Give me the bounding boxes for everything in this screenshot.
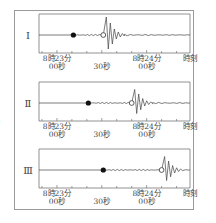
tick-label-seconds: 30秒	[94, 196, 112, 206]
tick-label-seconds: 00秒	[49, 129, 67, 139]
plot-box	[39, 14, 190, 53]
panel-label-III: Ⅲ	[23, 165, 33, 176]
p-wave-arrival-dot	[101, 167, 106, 172]
tick-label-seconds: 00秒	[49, 196, 67, 206]
s-wave-arrival-circle	[159, 168, 164, 173]
tick-label-seconds: 00秒	[138, 61, 156, 71]
waveform-trace	[39, 17, 190, 49]
axis-end-label: 時刻	[183, 188, 197, 198]
tick-label-seconds: 30秒	[94, 129, 112, 139]
s-wave-arrival-circle	[101, 33, 106, 38]
panel-label-II: Ⅱ	[25, 98, 32, 109]
panel-label-I: Ⅰ	[26, 30, 30, 41]
seismogram-figure: Ⅰ8時23分00秒30秒8時24分00秒時刻Ⅱ8時23分00秒30秒8時24分0…	[0, 0, 216, 223]
s-wave-arrival-circle	[129, 101, 134, 106]
plot-box	[39, 82, 190, 121]
waveform-trace	[39, 90, 190, 114]
axis-end-label: 時刻	[183, 53, 197, 63]
plot-box	[39, 149, 190, 188]
p-wave-arrival-dot	[71, 32, 76, 37]
p-wave-arrival-dot	[86, 100, 91, 105]
tick-label-seconds: 00秒	[138, 129, 156, 139]
axis-end-label: 時刻	[183, 121, 197, 131]
tick-label-seconds: 00秒	[138, 196, 156, 206]
tick-label-seconds: 00秒	[49, 61, 67, 71]
waveform-trace	[39, 157, 190, 181]
tick-label-seconds: 30秒	[94, 61, 112, 71]
